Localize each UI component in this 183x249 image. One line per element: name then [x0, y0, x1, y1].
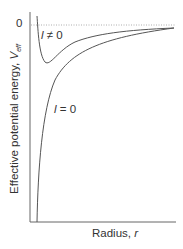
x-axis-label-symbol: r [134, 227, 138, 239]
y-axis-label-subscript: eff [15, 44, 22, 52]
label-l-zero: l = 0 [54, 103, 76, 115]
plot-area [0, 0, 183, 249]
label-l-zero-rest: = 0 [57, 103, 77, 115]
x-axis-label-text: Radius, [92, 227, 134, 239]
curve-l-zero [37, 28, 174, 222]
y-axis-label: Effective potential energy, Veff [8, 44, 22, 194]
x-axis-label: Radius, r [60, 227, 170, 239]
y-axis-label-text: Effective potential energy, [8, 60, 20, 194]
label-l-nonzero-rest: ≠ 0 [44, 29, 63, 41]
y-tick-zero: 0 [16, 17, 22, 29]
y-axis-label-symbol: V [8, 52, 20, 60]
label-l-nonzero: l ≠ 0 [41, 29, 63, 41]
